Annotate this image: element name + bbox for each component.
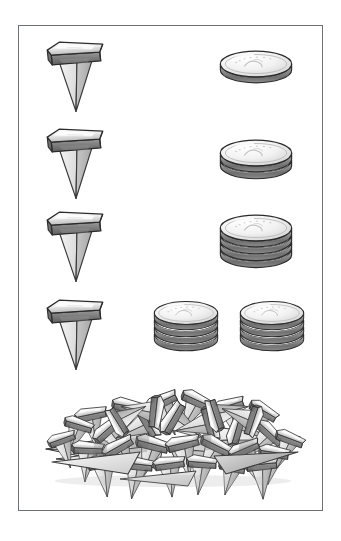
- row-3-tack: [47, 212, 102, 281]
- illustration-stage: Tacks and coins exchange-rate illustrati…: [0, 0, 341, 541]
- row-4-tack: [47, 300, 102, 369]
- row-2-tack: [47, 129, 102, 198]
- row-2-group: [47, 129, 291, 198]
- row-4-group: [47, 300, 303, 369]
- row-3-group: [47, 212, 291, 281]
- tack-pile-group: [46, 386, 306, 501]
- pile-ground-shadow: [55, 475, 291, 487]
- row-2-coin-stack-1: [220, 140, 291, 179]
- row-1-group: [47, 42, 291, 111]
- row-1-coin-stack-1: [220, 51, 291, 83]
- row-4-coin-stack-1: [154, 302, 217, 351]
- illustration-artwork: [0, 0, 341, 541]
- row-3-coin-stack-1: [220, 215, 291, 267]
- row-4-coin-stack-2: [240, 302, 303, 351]
- row-1-tack: [47, 42, 102, 111]
